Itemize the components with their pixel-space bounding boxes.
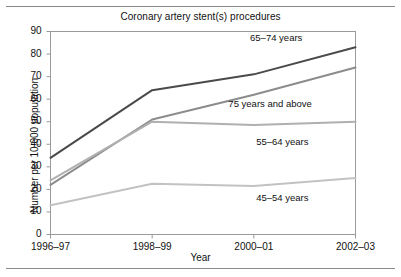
y-tick-label: 10 bbox=[16, 206, 42, 216]
y-tick-label: 80 bbox=[16, 49, 42, 59]
axes-group bbox=[51, 32, 356, 235]
y-tick-label: 40 bbox=[16, 139, 42, 149]
y-tick-label: 30 bbox=[16, 161, 42, 171]
x-tick-label: 2002–03 bbox=[316, 241, 396, 252]
series-label: 45–54 years bbox=[256, 192, 308, 203]
y-tick-marks bbox=[47, 32, 51, 235]
y-tick-label: 90 bbox=[16, 26, 42, 36]
x-tick-label: 1998–99 bbox=[112, 241, 192, 252]
plot-area bbox=[0, 0, 401, 277]
series-line bbox=[51, 178, 356, 205]
plot-frame bbox=[51, 32, 356, 235]
y-tick-label: 50 bbox=[16, 116, 42, 126]
series-label: 65–74 years bbox=[250, 32, 302, 43]
y-tick-label: 0 bbox=[16, 229, 42, 239]
series-label: 75 years and above bbox=[228, 98, 311, 109]
figure-container: Coronary artery stent(s) procedures Numb… bbox=[0, 0, 401, 277]
series-line bbox=[51, 122, 356, 181]
y-tick-label: 60 bbox=[16, 94, 42, 104]
series-label: 55–64 years bbox=[256, 136, 308, 147]
y-tick-label: 20 bbox=[16, 184, 42, 194]
x-tick-label: 1996–97 bbox=[11, 241, 91, 252]
x-tick-label: 2000–01 bbox=[214, 241, 294, 252]
x-tick-marks bbox=[51, 235, 356, 239]
y-tick-label: 70 bbox=[16, 71, 42, 81]
series-lines bbox=[51, 47, 356, 205]
